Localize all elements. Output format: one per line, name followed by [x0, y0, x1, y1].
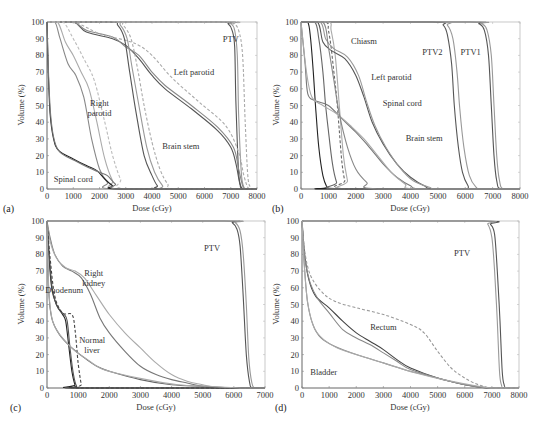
x-tick-label: 2000 [347, 191, 364, 201]
x-tick-label: 6000 [456, 390, 473, 400]
y-tick-label: 100 [286, 216, 299, 226]
y-tick-label: 0 [294, 184, 298, 194]
annotation-left-parotid: Left parotid [371, 72, 412, 82]
dvh-curve-ptv [302, 221, 519, 388]
dvh-curve-rectum-dashed [302, 221, 519, 388]
y-tick-label: 70 [36, 67, 45, 77]
y-tick-label: 50 [290, 101, 299, 111]
y-tick-label: 30 [36, 134, 45, 144]
dvh-curve-right-kidney-alt [47, 221, 265, 388]
annotation-ptv: PTV [454, 248, 471, 258]
dvh-curve-bladder [302, 221, 519, 388]
annotation-brain-stem: Brain stem [162, 141, 199, 151]
y-tick-label: 90 [290, 34, 299, 44]
x-tick-label: 3000 [375, 390, 392, 400]
annotation-brain-stem: Brain stem [406, 133, 443, 143]
annotation-rectum: Rectum [370, 322, 397, 332]
y-tick-label: 80 [291, 249, 300, 259]
x-tick-label: 6000 [196, 191, 213, 201]
dvh-figure: 0102030405060708090100010002000300040005… [0, 0, 544, 426]
x-tick-label: 0 [45, 390, 49, 400]
y-tick-label: 40 [290, 117, 299, 127]
annotation-right-parotid: parotid [87, 108, 112, 118]
panel-b-label: (b) [272, 203, 284, 215]
y-tick-label: 60 [291, 283, 300, 293]
panel-c-xlabel: Dose (cGy) [136, 402, 176, 412]
panel-c-label: (c) [10, 402, 21, 414]
x-tick-label: 1000 [70, 390, 87, 400]
x-tick-label: 8000 [249, 191, 266, 201]
x-tick-label: 5000 [429, 390, 446, 400]
x-tick-label: 1000 [321, 390, 338, 400]
y-tick-label: 100 [285, 17, 298, 27]
annotation-spinal-cord: Spinal cord [54, 174, 94, 184]
y-tick-label: 70 [291, 266, 300, 276]
x-tick-label: 0 [300, 390, 304, 400]
y-tick-label: 30 [291, 333, 300, 343]
x-tick-label: 4000 [144, 191, 161, 201]
dvh-curve-bladder-alt [302, 221, 519, 388]
y-tick-label: 40 [36, 316, 45, 326]
annotation-ptv: PTV [204, 243, 221, 253]
x-tick-label: 0 [45, 191, 49, 201]
annotation-normal-liver: Normal [79, 335, 106, 345]
x-tick-label: 6000 [457, 191, 474, 201]
annotation-right-parotid: Right [90, 98, 110, 108]
y-tick-label: 100 [31, 17, 44, 27]
y-tick-label: 60 [36, 283, 45, 293]
y-tick-label: 0 [295, 383, 299, 393]
plot-frame [302, 221, 519, 388]
y-tick-label: 20 [36, 151, 45, 161]
annotation-ptv: PTV [223, 34, 240, 44]
y-tick-label: 40 [36, 117, 45, 127]
panel-a-xlabel: Dose (cGy) [132, 203, 172, 213]
x-tick-label: 2000 [348, 390, 365, 400]
panel-c-ylabel: Volume (%) [16, 283, 26, 324]
x-tick-label: 4000 [402, 390, 419, 400]
x-tick-label: 3000 [132, 390, 149, 400]
panel-d-ylabel: Volume (%) [271, 283, 281, 324]
y-tick-label: 30 [36, 333, 45, 343]
y-tick-label: 90 [36, 233, 45, 243]
panel-a-ylabel: Volume (%) [16, 84, 26, 125]
panel-b-chart: 0102030405060708090100010002000300040005… [285, 17, 528, 201]
panel-a-chart: 0102030405060708090100010002000300040005… [31, 17, 265, 201]
y-tick-label: 80 [290, 50, 299, 60]
y-tick-label: 40 [291, 316, 300, 326]
y-tick-label: 80 [36, 249, 45, 259]
y-tick-label: 50 [36, 300, 45, 310]
x-tick-label: 8000 [512, 191, 529, 201]
y-tick-label: 20 [36, 350, 45, 360]
panel-d-xlabel: Dose (cGy) [390, 402, 430, 412]
y-tick-label: 0 [40, 184, 44, 194]
x-tick-label: 5000 [429, 191, 446, 201]
panel-b-ylabel: Volume (%) [271, 84, 281, 125]
x-tick-label: 4000 [163, 390, 180, 400]
y-tick-label: 60 [36, 84, 45, 94]
y-tick-label: 10 [291, 366, 300, 376]
annotation-right-kidney: kidney [82, 278, 106, 288]
y-tick-label: 90 [36, 34, 45, 44]
x-tick-label: 6000 [225, 390, 242, 400]
dvh-curve-rectum [302, 221, 519, 388]
x-tick-label: 7000 [483, 390, 500, 400]
panel-d-label: (d) [275, 402, 287, 414]
panel-c-chart: 0102030405060708090100010002000300040005… [31, 216, 273, 400]
y-tick-label: 60 [290, 84, 299, 94]
annotation-chiasm: Chiasm [351, 36, 377, 46]
dvh-curve-rectum-alt [302, 221, 519, 388]
y-tick-label: 50 [36, 101, 45, 111]
panel-a-label: (a) [3, 203, 14, 215]
annotation-spinal-cord: Spinal cord [383, 98, 423, 108]
panel-d-chart: 0102030405060708090100010002000300040005… [286, 216, 527, 400]
y-tick-label: 10 [36, 366, 45, 376]
annotation-right-kidney: Right [84, 268, 104, 278]
annotation-normal-liver: liver [84, 345, 100, 355]
y-tick-label: 80 [36, 50, 45, 60]
y-tick-label: 70 [290, 67, 299, 77]
y-tick-label: 10 [290, 167, 299, 177]
annotation-ptv2: PTV2 [422, 47, 442, 57]
dvh-curve-brain-stem-alt [47, 22, 257, 189]
annotation-bladder: Bladder [310, 367, 337, 377]
y-tick-label: 70 [36, 266, 45, 276]
